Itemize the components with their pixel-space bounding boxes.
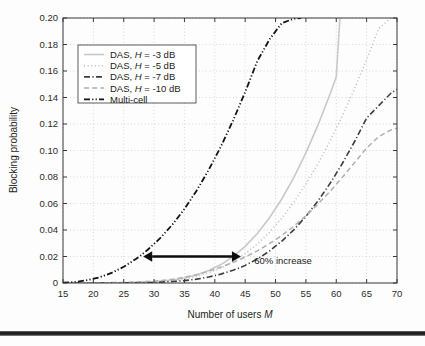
y-tick-label: 0.20 <box>40 12 59 23</box>
chart-legend[interactable]: DAS, H = -3 dBDAS, H = -5 dBDAS, H = -7 … <box>78 45 196 105</box>
x-tick-label: 60 <box>331 288 342 299</box>
page-separator-rule <box>0 331 425 336</box>
legend-label-3: DAS, H = -10 dB <box>110 83 181 94</box>
x-tick-label: 55 <box>301 288 312 299</box>
figure-container: 152025303540455055606570 00.020.040.060.… <box>0 0 425 346</box>
y-tick-label: 0 <box>53 277 58 288</box>
x-tick-label: 40 <box>210 288 221 299</box>
legend-label-4: Multi-cell <box>110 94 147 105</box>
legend-label-0: DAS, H = -3 dB <box>110 49 175 60</box>
y-tick-label: 0.02 <box>40 251 59 262</box>
y-axis-title: Blocking probability <box>8 107 19 193</box>
x-tick-label: 65 <box>361 288 372 299</box>
y-tick-label: 0.06 <box>40 198 59 209</box>
x-tick-label: 20 <box>88 288 99 299</box>
chart-plot-area: 152025303540455055606570 00.020.040.060.… <box>0 0 425 332</box>
y-tick-label: 0.12 <box>40 118 59 129</box>
legend-label-2: DAS, H = -7 dB <box>110 71 175 82</box>
y-tick-label: 0.16 <box>40 65 59 76</box>
annotation-text: 60% increase <box>254 255 312 266</box>
x-axis-title: Number of users M <box>187 309 273 320</box>
y-tick-label: 0.10 <box>40 145 59 156</box>
legend-label-1: DAS, H = -5 dB <box>110 60 175 71</box>
x-tick-label: 45 <box>240 288 251 299</box>
x-tick-label: 15 <box>58 288 69 299</box>
x-tick-label: 70 <box>392 288 403 299</box>
y-tick-label: 0.08 <box>40 171 59 182</box>
blocking-probability-chart: 152025303540455055606570 00.020.040.060.… <box>0 0 425 332</box>
y-tick-label: 0.04 <box>40 224 59 235</box>
x-tick-label: 30 <box>149 288 160 299</box>
y-tick-label: 0.14 <box>40 92 59 103</box>
x-tick-label: 35 <box>179 288 190 299</box>
y-tick-label: 0.18 <box>40 39 59 50</box>
x-tick-label: 50 <box>270 288 281 299</box>
x-tick-label: 25 <box>118 288 129 299</box>
